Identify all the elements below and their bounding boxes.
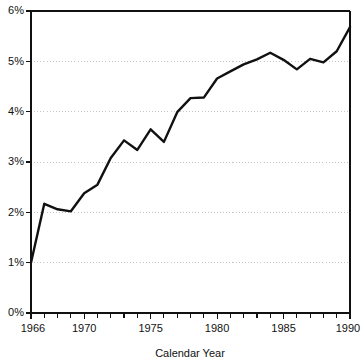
x-axis-ticks xyxy=(31,313,350,319)
y-tick-label-6: 6% xyxy=(8,4,24,16)
y-tick-label-1: 1% xyxy=(8,256,24,268)
y-axis-ticks xyxy=(26,11,31,313)
y-tick-label-0: 0% xyxy=(8,306,24,318)
x-tick-label-1966: 1966 xyxy=(21,322,45,334)
x-tick-label-1985: 1985 xyxy=(271,322,295,334)
data-line-rate xyxy=(31,27,350,263)
y-tick-label-4: 4% xyxy=(8,105,24,117)
gridlines xyxy=(31,61,350,262)
x-tick-label-1970: 1970 xyxy=(72,322,96,334)
chart-container: 0%1%2%3%4%5%6% 196619701975198019851990 … xyxy=(0,0,364,364)
y-axis-tick-labels: 0%1%2%3%4%5%6% xyxy=(8,4,24,318)
y-tick-label-2: 2% xyxy=(8,206,24,218)
x-tick-label-1990: 1990 xyxy=(336,322,360,334)
x-tick-label-1980: 1980 xyxy=(205,322,229,334)
y-tick-label-5: 5% xyxy=(8,55,24,67)
line-chart: 0%1%2%3%4%5%6% 196619701975198019851990 … xyxy=(0,0,364,364)
x-tick-label-1975: 1975 xyxy=(138,322,162,334)
x-axis-title: Calendar Year xyxy=(155,347,225,359)
y-tick-label-3: 3% xyxy=(8,155,24,167)
plot-frame xyxy=(31,11,350,313)
x-axis-tick-labels: 196619701975198019851990 xyxy=(21,322,360,334)
